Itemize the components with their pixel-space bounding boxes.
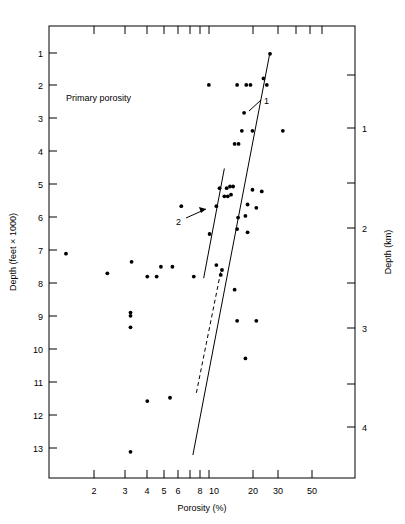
data-point: [244, 214, 248, 218]
data-point: [265, 83, 269, 87]
data-point: [281, 129, 285, 133]
y-tick-label-right: 1: [362, 124, 367, 134]
data-point: [240, 129, 244, 133]
y-tick-label: 5: [38, 180, 43, 190]
y-tick-label: 7: [38, 246, 43, 256]
data-point: [229, 193, 233, 197]
data-point: [233, 288, 237, 292]
data-point: [226, 194, 230, 198]
data-point: [129, 314, 133, 318]
x-tick-labels: 2 3 4 5 6 8 10 20 30 50: [91, 486, 317, 496]
y-tick-label: 6: [38, 213, 43, 223]
x-tick-label: 10: [209, 486, 219, 496]
data-point: [242, 111, 246, 115]
x-tick-label: 8: [197, 486, 202, 496]
y-tick-label-right: 3: [362, 324, 367, 334]
data-point: [129, 450, 133, 454]
scatter-points-layer: [64, 52, 285, 454]
data-point: [207, 83, 211, 87]
annotation-label-2: 2: [176, 217, 181, 227]
data-point: [171, 265, 175, 269]
data-point: [208, 232, 212, 236]
y-tick-label: 8: [38, 279, 43, 289]
x-tick-label: 20: [248, 486, 258, 496]
y-tick-labels-right: 1 2 3 4: [362, 124, 367, 433]
primary-porosity-depth-chart: 2 3 4 5 6 8 10 20 30 50 Porosity (%) 1 2…: [0, 0, 405, 524]
y-tick-label: 10: [33, 345, 43, 355]
data-point: [235, 319, 239, 323]
data-point: [159, 265, 163, 269]
data-point: [246, 230, 250, 234]
trend-line-2: [204, 168, 225, 278]
bottom-axis-ticks: [94, 470, 312, 478]
y-tick-label: 2: [38, 81, 43, 91]
y-tick-label: 13: [33, 444, 43, 454]
data-point: [251, 188, 255, 192]
data-point: [249, 83, 253, 87]
data-point: [129, 325, 133, 329]
data-point: [244, 357, 248, 361]
y-axis-title-left: Depth (feet × 1000): [8, 213, 18, 291]
data-point: [231, 185, 235, 189]
data-point: [145, 399, 149, 403]
x-axis-title: Porosity (%): [177, 503, 226, 513]
x-tick-label: 50: [307, 486, 317, 496]
y-tick-label: 3: [38, 114, 43, 124]
x-tick-label: 5: [161, 486, 166, 496]
data-point: [64, 252, 68, 256]
data-point: [130, 260, 134, 264]
y-tick-label: 4: [38, 147, 43, 157]
top-axis-ticks: [94, 26, 322, 34]
data-point: [105, 271, 109, 275]
data-point: [233, 142, 237, 146]
x-tick-label: 6: [175, 486, 180, 496]
data-point: [244, 83, 248, 87]
left-axis-ticks: [49, 53, 57, 448]
x-tick-label: 3: [122, 486, 127, 496]
data-point: [235, 83, 239, 87]
trend-line-1: [193, 52, 270, 455]
y-tick-label: 1: [38, 49, 43, 59]
y-tick-label-right: 4: [362, 423, 367, 433]
data-point: [254, 206, 258, 210]
x-tick-label: 4: [144, 486, 149, 496]
y-tick-label-right: 2: [362, 224, 367, 234]
annotation-label-1: 1: [264, 96, 269, 106]
data-point: [222, 194, 226, 198]
data-point: [254, 319, 258, 323]
data-point: [155, 275, 159, 279]
y-tick-label: 9: [38, 312, 43, 322]
y-axis-title-right: Depth (km): [383, 230, 393, 275]
data-point: [220, 268, 224, 272]
data-point: [225, 186, 229, 190]
data-point: [129, 311, 133, 315]
right-axis-ticks: [347, 75, 355, 427]
y-tick-label: 11: [34, 378, 43, 388]
data-point: [251, 129, 255, 133]
data-point: [260, 190, 264, 194]
data-point: [192, 275, 196, 279]
x-tick-label: 2: [91, 486, 96, 496]
data-point: [179, 204, 183, 208]
data-point: [237, 142, 241, 146]
y-tick-labels: 1 2 3 4 5 6 7 8 9 10 11 12 13: [33, 49, 43, 454]
data-point: [246, 203, 250, 207]
data-point: [214, 263, 218, 267]
trend-lines-layer: [193, 52, 270, 455]
data-point: [145, 275, 149, 279]
plot-title-primary-porosity: Primary porosity: [66, 93, 132, 103]
data-point: [168, 396, 172, 400]
y-tick-label: 12: [33, 411, 43, 421]
x-tick-label: 30: [273, 486, 283, 496]
